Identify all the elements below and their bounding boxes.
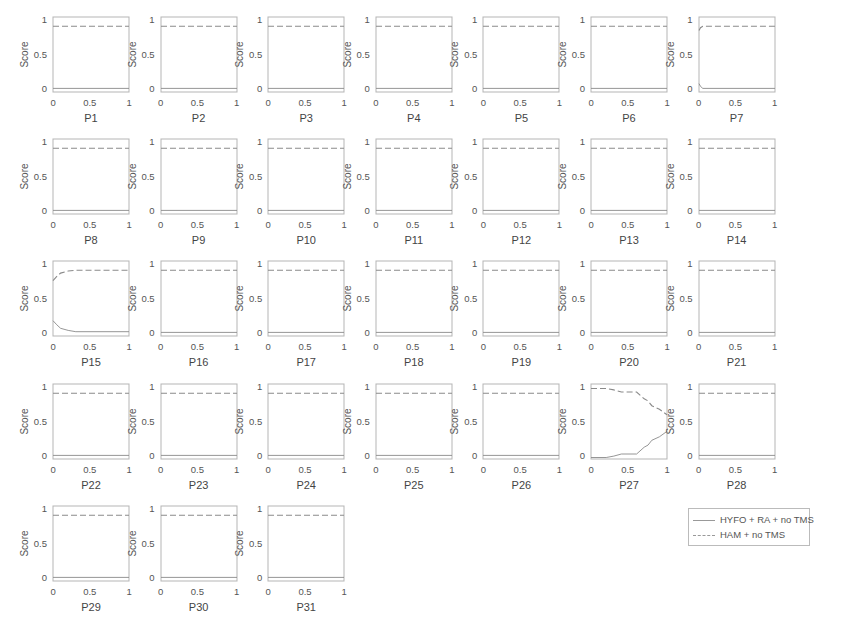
y-tick-label: 0 [472,450,477,461]
x-tick-label: 0.5 [621,341,634,352]
x-tick-label: 0 [50,97,55,108]
y-tick-label: 1 [580,381,585,392]
subplot-title: P13 [589,234,669,246]
y-axis-label: Score [341,408,352,434]
x-tick-label: 0.5 [191,341,204,352]
y-axis-label: Score [341,163,352,189]
x-tick-label: 0 [696,219,701,230]
y-tick-label: 1 [257,14,262,25]
subplot-title: P30 [159,601,239,613]
y-axis-label: Score [126,285,137,311]
y-axis-label: Score [19,530,30,556]
y-tick-label: 0.5 [357,171,370,182]
y-tick-label: 1 [472,136,477,147]
y-axis-label: Score [341,41,352,67]
x-tick-label: 0.5 [83,219,96,230]
y-tick-label: 1 [149,258,154,269]
subplot-title: P27 [589,479,669,491]
y-axis-label: Score [19,285,30,311]
y-tick-label: 0 [257,327,262,338]
subplot-title: P26 [481,479,561,491]
y-axis-label: Score [557,41,568,67]
y-tick-label: 1 [42,136,47,147]
plot-area [228,498,354,613]
x-tick-label: 0 [266,219,271,230]
y-tick-label: 0 [472,83,477,94]
y-tick-label: 0 [257,83,262,94]
y-tick-label: 0 [580,205,585,216]
y-tick-label: 0.5 [572,293,585,304]
y-tick-label: 0.5 [141,416,154,427]
x-tick-label: 0.5 [729,464,742,475]
x-tick-label: 0 [373,219,378,230]
y-tick-label: 0 [42,572,47,583]
y-axis-label: Score [664,41,675,67]
y-tick-label: 1 [149,14,154,25]
x-tick-label: 0.5 [83,341,96,352]
x-tick-label: 0.5 [191,219,204,230]
y-tick-label: 0 [687,450,692,461]
plot-area [659,253,785,368]
y-tick-label: 1 [472,14,477,25]
x-tick-label: 0.5 [729,341,742,352]
y-tick-label: 0.5 [572,49,585,60]
x-tick-label: 0 [50,219,55,230]
legend-label: HYFO + RA + no TMS [720,514,814,525]
y-tick-label: 0 [580,83,585,94]
x-tick-label: 0 [696,341,701,352]
y-tick-label: 0 [257,572,262,583]
subplot-title: P7 [697,112,777,124]
y-tick-label: 0.5 [34,171,47,182]
x-tick-label: 0.5 [83,586,96,597]
y-tick-label: 0 [42,327,47,338]
y-tick-label: 0.5 [464,171,477,182]
y-tick-label: 0.5 [572,416,585,427]
y-axis-label: Score [557,163,568,189]
x-tick-label: 0 [158,97,163,108]
subplot-title: P9 [159,234,239,246]
y-tick-label: 0 [687,205,692,216]
y-tick-label: 1 [687,258,692,269]
plot-area [659,376,785,491]
y-tick-label: 0.5 [249,49,262,60]
y-tick-label: 1 [149,136,154,147]
subplot-title: P17 [266,356,346,368]
x-tick-label: 0.5 [406,341,419,352]
y-axis-label: Score [126,41,137,67]
subplot-title: P16 [159,356,239,368]
y-tick-label: 1 [687,381,692,392]
x-tick-label: 0.5 [729,219,742,230]
y-tick-label: 0 [580,327,585,338]
x-tick-label: 0.5 [298,97,311,108]
x-tick-label: 0.5 [191,97,204,108]
y-tick-label: 0 [365,450,370,461]
y-tick-label: 0.5 [141,171,154,182]
y-tick-label: 1 [365,258,370,269]
y-tick-label: 0 [365,327,370,338]
subplot-title: P25 [374,479,454,491]
x-tick-label: 1 [772,219,777,230]
x-tick-label: 0 [696,97,701,108]
y-axis-label: Score [449,408,460,434]
y-tick-label: 0.5 [679,171,692,182]
x-tick-label: 0.5 [83,97,96,108]
x-tick-label: 0.5 [514,341,527,352]
x-tick-label: 0.5 [298,341,311,352]
subplot-p31: 10.5000.51ScoreP31 [228,498,354,613]
y-tick-label: 0.5 [464,416,477,427]
y-axis-label: Score [126,530,137,556]
y-tick-label: 0 [472,205,477,216]
y-tick-label: 0 [472,327,477,338]
y-tick-label: 0.5 [141,49,154,60]
x-tick-label: 0 [481,341,486,352]
x-tick-label: 0 [266,341,271,352]
y-tick-label: 0.5 [464,293,477,304]
x-tick-label: 0.5 [83,464,96,475]
x-tick-label: 0.5 [621,97,634,108]
x-tick-label: 1 [772,97,777,108]
subplot-title: P19 [481,356,561,368]
subplot-title: P11 [374,234,454,246]
x-tick-label: 0 [266,464,271,475]
y-tick-label: 0 [687,327,692,338]
y-tick-label: 0.5 [679,416,692,427]
